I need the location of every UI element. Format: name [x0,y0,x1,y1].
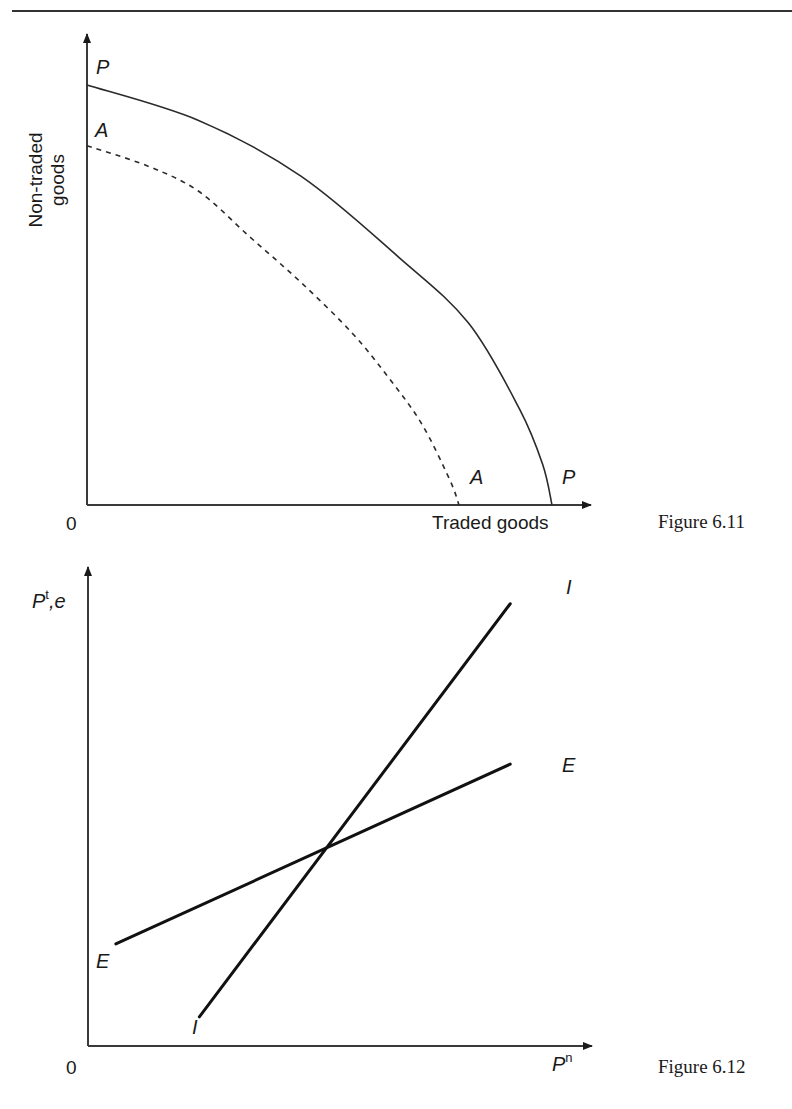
label-e-bottom: E [96,950,110,972]
label-p-bottom: P [562,466,576,488]
y-axis-label: Pt,e [32,587,66,612]
y-axis-label-line1: Non-traded [25,132,46,227]
label-i-bottom: I [192,1016,198,1038]
origin-label: 0 [66,1057,77,1078]
x-axis-label: Pn [552,1050,573,1075]
label-a-top: A [94,119,108,141]
figure-caption: Figure 6.12 [658,1056,746,1077]
line-i [199,604,510,1017]
y-axis-label-line2: goods [47,154,68,206]
curve-a [87,146,459,505]
label-e-top: E [562,754,576,776]
label-p-top: P [96,56,110,78]
origin-label: 0 [66,513,77,534]
figure-caption: Figure 6.11 [658,511,745,532]
label-i-top: I [566,576,572,598]
figure-6-11: Non-traded goods P A A P 0 Traded goods … [25,34,745,534]
line-e [116,764,510,944]
label-a-bottom: A [469,466,483,488]
curve-p [87,85,552,505]
x-axis-label: Traded goods [432,512,549,533]
figure-6-12: Pt,e I E E I 0 Pn Figure 6.12 [32,567,746,1078]
figure-canvas: Non-traded goods P A A P 0 Traded goods … [0,0,792,1109]
